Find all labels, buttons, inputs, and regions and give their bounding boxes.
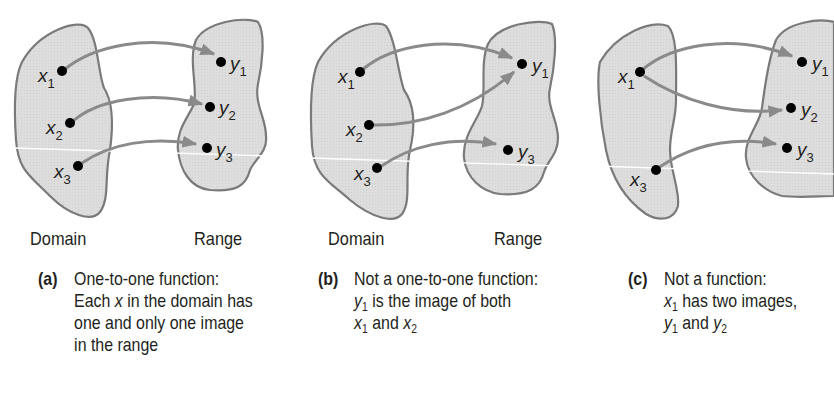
- domain-set-a: [15, 25, 112, 217]
- caption-body-b: Not a one-to-one function: y1 is the ima…: [354, 268, 538, 334]
- caption-b-line-1: Not a one-to-one function:: [354, 268, 538, 290]
- domain-label-a: Domain: [30, 228, 86, 250]
- domain-set-b: [311, 24, 413, 219]
- point-y3: [503, 145, 513, 155]
- point-y2: [786, 103, 796, 113]
- point-y1: [517, 59, 527, 69]
- range-label-a: Range: [194, 228, 242, 250]
- point-x2: [65, 118, 75, 128]
- panel-b: x1 x2 x3 y1 y3: [310, 22, 560, 219]
- point-x3: [372, 163, 382, 173]
- caption-a-line-1: One-to-one function:: [74, 268, 253, 290]
- point-x1: [57, 66, 67, 76]
- point-y2: [205, 102, 215, 112]
- point-x2: [364, 120, 374, 130]
- point-x3: [73, 161, 83, 171]
- caption-a-line-4: in the range: [74, 334, 253, 356]
- caption-c-line-3: y1 and y2: [664, 312, 797, 334]
- caption-tag-c: (c): [628, 268, 647, 290]
- caption-b-line-3: x1 and x2: [354, 312, 538, 334]
- point-y1: [797, 57, 807, 67]
- point-y3: [782, 143, 792, 153]
- caption-c-line-2: x1 has two images,: [664, 290, 797, 312]
- caption-b-line-2: y1 is the image of both: [354, 290, 538, 312]
- panel-c: x1 x3 y1 y2 y3: [596, 21, 834, 219]
- point-x3: [651, 165, 661, 175]
- point-y1: [216, 57, 226, 67]
- caption-a-line-3: one and only one image: [74, 312, 253, 334]
- panel-a: x1 x2 x3 y1 y2 y3: [14, 20, 268, 217]
- caption-tag-b: (b): [318, 268, 338, 290]
- caption-tag-a: (a): [38, 268, 57, 290]
- point-y3: [202, 143, 212, 153]
- range-label-b: Range: [494, 228, 542, 250]
- point-x1: [635, 67, 645, 77]
- caption-body-a: One-to-one function: Each x in the domai…: [74, 268, 253, 356]
- caption-c-line-1: Not a function:: [664, 268, 797, 290]
- caption-a-line-2: Each x in the domain has: [74, 290, 253, 312]
- caption-body-c: Not a function: x1 has two images, y1 an…: [664, 268, 797, 334]
- point-x1: [355, 67, 365, 77]
- domain-label-b: Domain: [328, 228, 384, 250]
